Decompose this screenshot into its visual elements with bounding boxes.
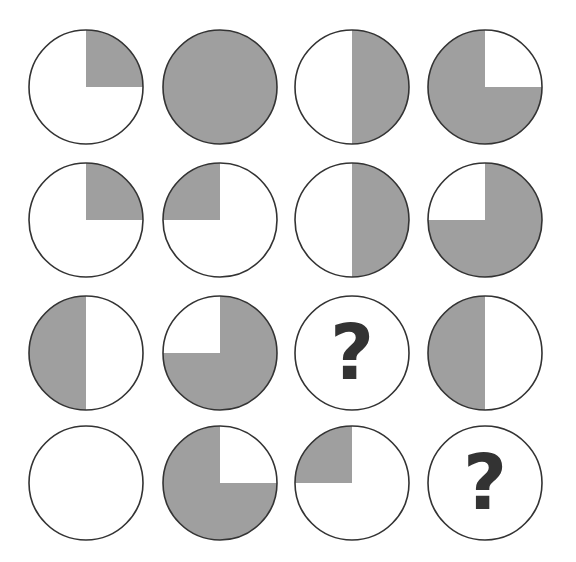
circle-shape <box>161 424 279 542</box>
circle-shape <box>426 161 544 279</box>
circle-shape <box>161 161 279 279</box>
circle-shape <box>293 161 411 279</box>
pattern-circle <box>293 28 411 146</box>
circle-shape <box>426 28 544 146</box>
circle-shape <box>27 161 145 279</box>
pattern-circle <box>161 28 279 146</box>
circle-shape <box>27 28 145 146</box>
pattern-circle <box>27 294 145 412</box>
pattern-circle <box>161 161 279 279</box>
question-mark-icon: ? <box>426 424 544 542</box>
pattern-circle <box>27 28 145 146</box>
pattern-circle <box>27 424 145 542</box>
pattern-circle <box>27 161 145 279</box>
question-mark-icon: ? <box>293 294 411 412</box>
circle-shape <box>27 424 145 542</box>
pattern-circle <box>426 161 544 279</box>
pattern-circle <box>426 28 544 146</box>
pattern-circle <box>293 424 411 542</box>
question-circle: ? <box>426 424 544 542</box>
pattern-circle <box>293 161 411 279</box>
circle-shape <box>293 424 411 542</box>
question-circle: ? <box>293 294 411 412</box>
pattern-circle <box>426 294 544 412</box>
pattern-circle <box>161 294 279 412</box>
circle-shape <box>293 28 411 146</box>
circle-shape <box>161 294 279 412</box>
circle-shape <box>161 28 279 146</box>
puzzle-board: ? ? <box>0 0 576 562</box>
pattern-circle <box>161 424 279 542</box>
circle-shape <box>27 294 145 412</box>
circle-shape <box>426 294 544 412</box>
